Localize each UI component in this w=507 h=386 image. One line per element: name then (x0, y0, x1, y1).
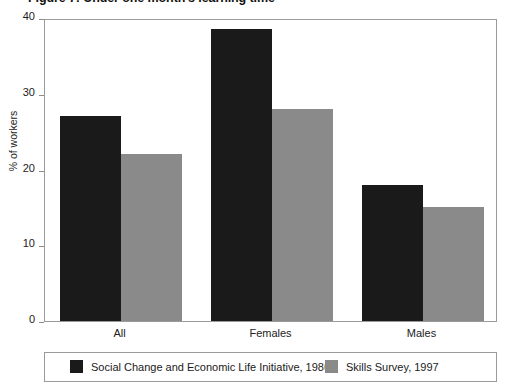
bar-males-series-1 (423, 207, 484, 321)
bar-females-series-0 (211, 29, 272, 321)
x-axis-label-males: Males (362, 327, 482, 339)
y-axis-tick-label: 10 (23, 238, 35, 249)
y-axis-tick-label: 30 (23, 87, 35, 98)
y-axis-tick-mark (39, 322, 44, 323)
y-axis-tick: 10 (0, 246, 44, 247)
bar-chart: % of workers 010203040 AllFemalesMales S… (0, 0, 507, 386)
y-axis-tick: 0 (0, 322, 44, 323)
y-axis-tick-label: 40 (23, 11, 35, 22)
y-axis-tick-label: 20 (23, 163, 35, 174)
y-axis-tick: 30 (0, 95, 44, 96)
legend-label-series-1: Skills Survey, 1997 (346, 361, 439, 373)
bar-females-series-1 (272, 109, 333, 321)
chart-legend: Social Change and Economic Life Initiati… (44, 352, 497, 382)
y-axis-tick: 20 (0, 171, 44, 172)
legend-item-series-0: Social Change and Economic Life Initiati… (70, 360, 330, 373)
plot-frame (44, 19, 497, 322)
bar-males-series-0 (362, 185, 423, 321)
y-axis-tick-label: 0 (29, 314, 35, 325)
legend-item-series-1: Skills Survey, 1997 (325, 360, 439, 373)
bar-all-series-1 (121, 154, 182, 321)
legend-label-series-0: Social Change and Economic Life Initiati… (91, 361, 330, 373)
y-axis-tick: 40 (0, 19, 44, 20)
plot-inner (45, 20, 496, 321)
x-axis-label-females: Females (211, 327, 331, 339)
bar-all-series-0 (60, 116, 121, 321)
y-axis-title: % of workers (7, 86, 19, 196)
x-axis-label-all: All (60, 327, 180, 339)
legend-swatch-icon-series-1 (325, 360, 338, 373)
legend-swatch-icon-series-0 (70, 360, 83, 373)
